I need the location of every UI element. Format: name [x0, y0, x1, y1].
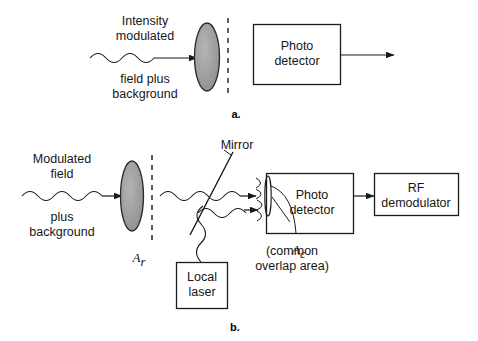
panel-b-mirror-label: Mirror: [207, 138, 267, 153]
panel-a-incoming-wave: [90, 54, 197, 63]
panel-a-caption: a.: [224, 107, 248, 122]
panel-b-input-label-top: Modulated field: [7, 152, 117, 182]
panel-b-lens-area-symbol: Ar: [112, 236, 152, 283]
panel-b-detector-label: Photo detector: [269, 188, 355, 218]
figure-root: Intensity modulated field plus backgroun…: [0, 0, 478, 341]
panel-b-input-label-bottom: plus background: [2, 210, 122, 240]
panel-b-wavefront-arcs: [256, 178, 262, 221]
panel-b-demodulator-label: RF demodulator: [373, 181, 459, 211]
panel-b-local-oscillator-wave: [198, 209, 258, 218]
panel-b-overlap-note: (common overlap area): [227, 244, 357, 273]
panel-b-incoming-wave: [22, 192, 122, 201]
panel-b-local-laser-label: Local laser: [174, 270, 230, 300]
panel-b-receiver-lens: [121, 161, 144, 231]
panel-a-input-label-bottom: field plus background: [85, 72, 205, 102]
panel-a-detector-label: Photo detector: [254, 39, 340, 69]
lens-area-symbol-subscript: r: [140, 253, 145, 268]
panel-b-caption: b.: [223, 320, 247, 335]
panel-a-input-label-top: Intensity modulated: [90, 14, 200, 44]
